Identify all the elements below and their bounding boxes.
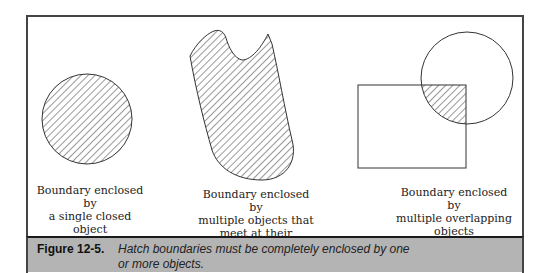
label-line: Boundary enclosed by	[30, 184, 150, 210]
hatched-circle	[42, 74, 132, 164]
label-line: multiple overlapping	[394, 212, 514, 225]
label-line: Boundary enclosed by	[394, 186, 514, 212]
overlapping-objects	[358, 32, 513, 168]
label-line: Boundary enclosed by	[196, 188, 316, 214]
figure-caption-bar: Figure 12-5. Hatch boundaries must be co…	[26, 236, 524, 272]
label-overlapping: Boundary enclosed by multiple overlappin…	[394, 186, 514, 238]
figure-number: Figure 12-5.	[37, 242, 104, 256]
label-single-object: Boundary enclosed by a single closed obj…	[30, 184, 150, 236]
circle	[421, 32, 513, 124]
label-line: a single closed object	[30, 210, 150, 236]
label-line: multiple objects that	[196, 214, 316, 227]
hatched-overlap-region	[358, 85, 466, 168]
figure-caption: Hatch boundaries must be completely encl…	[118, 242, 418, 272]
hatched-freeform-shape	[190, 30, 293, 180]
